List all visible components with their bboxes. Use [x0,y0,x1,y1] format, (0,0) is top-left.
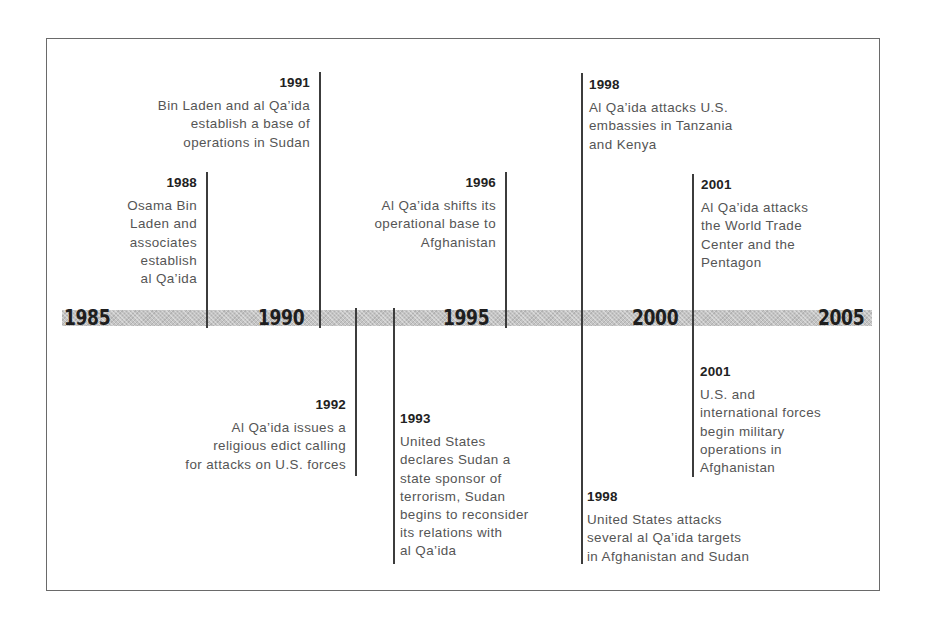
event-2001-afghanistan: 2001 U.S. and international forces begin… [700,363,875,477]
event-1991: 1991 Bin Laden and al Qa’ida establish a… [90,74,310,152]
event-1996: 1996 Al Qa’ida shifts its operational ba… [316,174,496,252]
event-line-1996 [505,172,507,328]
event-year: 2001 [700,363,875,381]
event-year: 1993 [400,410,580,428]
event-1998-embassies: 1998 Al Qa’ida attacks U.S. embassies in… [589,76,789,154]
event-description: Bin Laden and al Qa’ida establish a base… [90,97,310,152]
event-description: Al Qa’ida issues a religious edict calli… [106,419,346,474]
axis-year-1995: 1995 [443,306,489,330]
axis-year-1990: 1990 [258,306,304,330]
event-description: Al Qa’ida attacks U.S. embassies in Tanz… [589,99,789,154]
axis-year-2000: 2000 [632,306,678,330]
event-year: 1996 [316,174,496,192]
event-description: Al Qa’ida shifts its operational base to… [316,197,496,252]
event-line-1998 [581,73,583,564]
event-year: 1992 [106,396,346,414]
event-description: United States declares Sudan a state spo… [400,433,580,560]
event-1998-strikes: 1998 United States attacks several al Qa… [587,488,817,566]
event-line-1992 [355,308,357,476]
event-year: 1998 [587,488,817,506]
axis-year-1985: 1985 [64,306,110,330]
event-year: 1991 [90,74,310,92]
event-year: 1998 [589,76,789,94]
event-1993: 1993 United States declares Sudan a stat… [400,410,580,561]
event-year: 2001 [701,176,871,194]
event-line-1988 [206,172,208,328]
event-2001-wtc: 2001 Al Qa’ida attacks the World Trade C… [701,176,871,272]
axis-year-2005: 2005 [818,306,864,330]
event-line-1993 [393,308,395,564]
event-line-2001 [692,174,694,477]
event-description: United States attacks several al Qa’ida … [587,511,817,566]
event-description: U.S. and international forces begin mili… [700,386,875,477]
event-year: 1988 [47,174,197,192]
event-description: Osama Bin Laden and associates establish… [47,197,197,288]
event-description: Al Qa’ida attacks the World Trade Center… [701,199,871,272]
event-1992: 1992 Al Qa’ida issues a religious edict … [106,396,346,474]
event-1988: 1988 Osama Bin Laden and associates esta… [47,174,197,288]
